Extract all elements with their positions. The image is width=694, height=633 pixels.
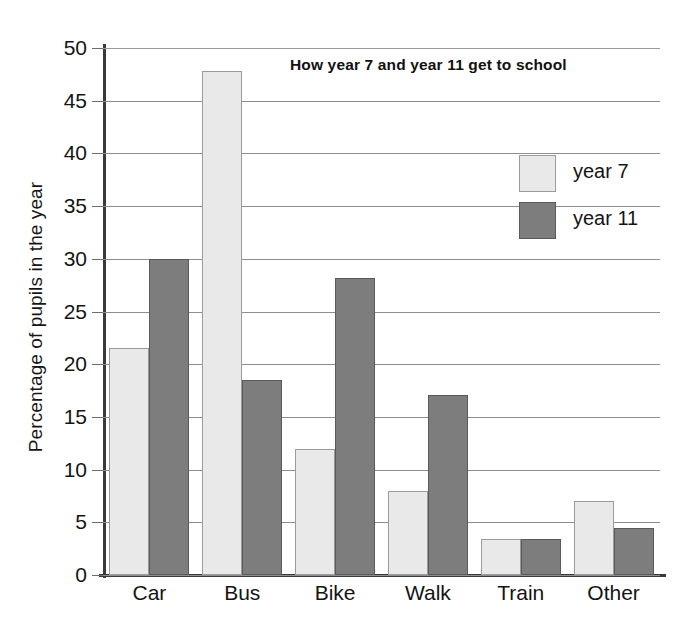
bar-car-year-11 [149,259,189,575]
y-tick [92,364,103,365]
bar-other-year-11 [614,528,654,575]
y-tick [92,101,103,102]
legend-label-year-7: year 7 [573,160,629,183]
y-tick-label: 30 [41,248,87,269]
x-tick-label-bike: Bike [289,582,382,603]
y-tick [92,153,103,154]
bar-bus-year-11 [242,380,282,575]
bar-train-year-7 [481,539,521,575]
bar-walk-year-7 [388,491,428,575]
legend-swatch-year-11 [519,202,556,239]
bar-train-year-11 [521,539,561,575]
x-tick-label-bus: Bus [196,582,289,603]
bar-other-year-7 [574,501,614,575]
y-tick-label: 10 [41,459,87,480]
y-tick-label: 40 [41,142,87,163]
gridline [103,575,660,576]
bar-chart: Percentage of pupils in the year How yea… [0,0,694,633]
bar-group-container [103,48,660,575]
y-tick-label: 35 [41,195,87,216]
y-tick [92,48,103,49]
y-tick-label: 0 [41,564,87,585]
y-tick-label: 20 [41,353,87,374]
y-tick-label: 5 [41,511,87,532]
y-tick [92,575,103,576]
legend-swatch-year-7 [519,155,556,192]
legend-label-year-11: year 11 [573,207,638,230]
bar-car-year-7 [109,348,149,575]
bar-bike-year-11 [335,278,375,575]
bar-bus-year-7 [202,71,242,575]
bar-walk-year-11 [428,395,468,575]
x-tick-label-walk: Walk [382,582,475,603]
y-tick [92,522,103,523]
x-tick-label-car: Car [103,582,196,603]
x-tick-label-other: Other [567,582,660,603]
y-tick [92,417,103,418]
bar-bike-year-7 [295,449,335,575]
y-tick-label: 15 [41,406,87,427]
plot-area [103,48,660,575]
y-tick-label: 45 [41,90,87,111]
y-tick-label: 25 [41,301,87,322]
y-tick [92,312,103,313]
y-tick [92,259,103,260]
x-tick-label-train: Train [474,582,567,603]
y-tick-label: 50 [41,37,87,58]
y-tick [92,470,103,471]
y-tick [92,206,103,207]
